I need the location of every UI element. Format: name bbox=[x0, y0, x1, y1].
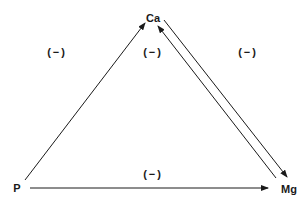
sign-center: (−) bbox=[143, 46, 163, 58]
node-p: P bbox=[13, 182, 20, 194]
arrow-p-to-ca bbox=[25, 23, 145, 180]
node-mg: Mg bbox=[281, 183, 297, 195]
arrow-mg-to-ca bbox=[158, 26, 276, 178]
node-ca: Ca bbox=[146, 12, 160, 24]
arrow-ca-to-mg bbox=[164, 20, 287, 177]
sign-bottom: (−) bbox=[143, 168, 163, 180]
sign-left: (−) bbox=[47, 46, 67, 58]
sign-right: (−) bbox=[238, 46, 258, 58]
